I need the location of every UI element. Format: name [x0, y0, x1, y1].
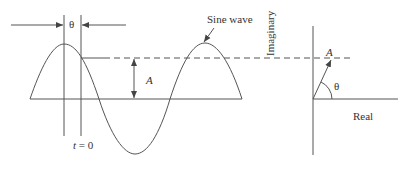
phasor-amplitude-label: A	[326, 47, 333, 58]
phasor-angle-arc	[321, 82, 332, 99]
imaginary-axis-label: Imaginary	[265, 11, 276, 56]
sine-wave-pointer	[204, 28, 214, 42]
real-axis-label: Real	[353, 111, 373, 122]
theta-label-top: θ	[69, 19, 74, 30]
sine-wave-label: Sine wave	[207, 14, 253, 25]
t-zero-label: t = 0	[73, 140, 93, 151]
amplitude-label: A	[146, 75, 153, 86]
diagram-canvas	[0, 0, 408, 169]
phasor-angle-label: θ	[334, 81, 339, 92]
phasor-vector	[313, 60, 331, 99]
